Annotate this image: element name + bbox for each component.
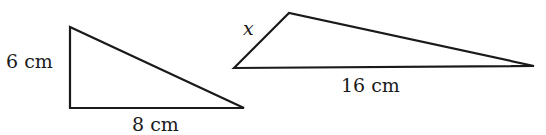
small-right-triangle	[70, 27, 244, 108]
large-triangle-side-x-label: x	[243, 17, 254, 39]
large-triangle	[234, 13, 534, 68]
small-triangle-base-label: 8 cm	[132, 113, 179, 135]
large-triangle-base-label: 16 cm	[341, 74, 400, 96]
similar-triangles-diagram: 6 cm 8 cm x 16 cm	[0, 0, 546, 135]
small-triangle-height-label: 6 cm	[6, 50, 53, 72]
diagram-canvas: 6 cm 8 cm x 16 cm	[0, 0, 546, 135]
